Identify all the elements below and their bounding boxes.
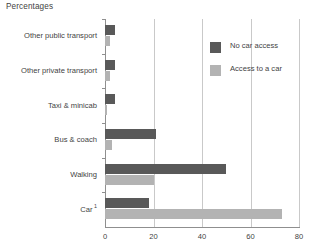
legend-item: No car access xyxy=(210,41,282,53)
chart-row xyxy=(105,88,299,123)
bar-access-to-a-car xyxy=(105,209,282,219)
category-label: Other public transport xyxy=(24,31,97,40)
legend-label: Access to a car xyxy=(230,64,282,74)
bar-no-car-access xyxy=(105,25,115,35)
bar-chart: Percentages Other public transportOther … xyxy=(0,0,316,249)
category-label: Car 1 xyxy=(80,205,97,214)
chart-row xyxy=(105,158,299,193)
legend-swatch-icon xyxy=(210,42,221,53)
x-tick-label: 80 xyxy=(295,232,303,241)
y-axis-tick xyxy=(102,192,105,193)
category-label: Taxi & minicab xyxy=(48,101,97,110)
chart-title: Percentages xyxy=(6,2,53,11)
legend-swatch-icon xyxy=(210,65,221,76)
x-tick-label: 60 xyxy=(246,232,254,241)
bar-access-to-a-car xyxy=(105,105,107,115)
chart-row xyxy=(105,192,299,227)
legend-item: Access to a car xyxy=(210,64,282,76)
x-tick-label: 40 xyxy=(198,232,206,241)
y-axis-tick xyxy=(102,123,105,124)
x-axis-line xyxy=(105,227,300,228)
bar-no-car-access xyxy=(105,60,115,70)
chart-legend: No car accessAccess to a car xyxy=(210,41,282,87)
bar-access-to-a-car xyxy=(105,175,154,185)
x-tick-label: 0 xyxy=(103,232,107,241)
category-label: Other private transport xyxy=(21,66,97,75)
category-label: Bus & coach xyxy=(54,135,97,144)
bar-no-car-access xyxy=(105,94,115,104)
y-axis-tick xyxy=(102,88,105,89)
bar-no-car-access xyxy=(105,164,226,174)
bar-access-to-a-car xyxy=(105,140,112,150)
x-tick-label: 20 xyxy=(149,232,157,241)
bar-access-to-a-car xyxy=(105,36,110,46)
y-axis-tick xyxy=(102,54,105,55)
chart-row xyxy=(105,123,299,158)
category-label: Walking xyxy=(70,170,97,179)
bar-no-car-access xyxy=(105,129,156,139)
legend-label: No car access xyxy=(230,41,282,51)
y-axis-tick xyxy=(102,19,105,20)
y-axis-tick xyxy=(102,158,105,159)
bar-access-to-a-car xyxy=(105,71,110,81)
bar-no-car-access xyxy=(105,198,149,208)
gridline-80 xyxy=(299,19,300,227)
